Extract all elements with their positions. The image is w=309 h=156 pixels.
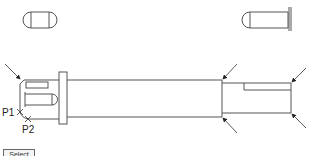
pin-side-view [242, 7, 291, 31]
technical-drawing [0, 0, 309, 156]
point-label-p2: P2 [22, 125, 34, 135]
point-markers [17, 109, 31, 122]
leader-arrows [5, 64, 306, 133]
select-button[interactable]: Select [3, 149, 35, 156]
capsule-view [23, 12, 57, 28]
shaft-elevation [20, 72, 291, 124]
point-label-p1: P1 [2, 108, 14, 118]
